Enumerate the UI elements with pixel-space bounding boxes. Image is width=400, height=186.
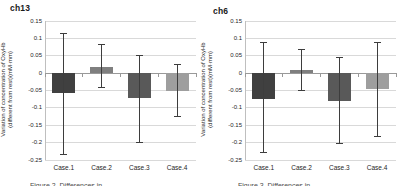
- gridline: [45, 142, 196, 143]
- x-category-label: Case.4: [159, 164, 195, 172]
- y-tick-label: -0.15: [217, 122, 242, 129]
- x-category-label: Case.4: [359, 164, 395, 172]
- y-tick-label: 0.1: [17, 35, 42, 42]
- error-bar-line: [263, 42, 264, 153]
- y-axis-title-line2: (different from rest)(mM·mm): [7, 17, 14, 162]
- error-bar-cap-bottom: [336, 143, 343, 144]
- y-tick-label: 0.15: [217, 18, 242, 25]
- y-tick-label: -0.2: [217, 139, 242, 146]
- gridline: [245, 125, 396, 126]
- chart-ch13: ch13 Variation of concentration of OxyHb…: [0, 0, 200, 186]
- error-bar-line: [63, 33, 64, 155]
- error-bar-cap-bottom: [298, 90, 305, 91]
- y-tick-label: -0.1: [17, 104, 42, 111]
- y-tick-label: 0: [17, 70, 42, 77]
- gridline: [45, 21, 196, 22]
- figure-caption: Figure 3. Differences in: [238, 181, 400, 186]
- error-bar-cap-bottom: [260, 152, 267, 153]
- x-category-label: Case.2: [84, 164, 120, 172]
- axis-tick: [45, 73, 46, 77]
- error-bar-line: [101, 44, 102, 88]
- gridline: [245, 55, 396, 56]
- gridline: [45, 107, 196, 108]
- gridline: [245, 107, 396, 108]
- error-bar-cap-bottom: [60, 154, 67, 155]
- axis-tick: [82, 73, 83, 77]
- y-tick-label: 0.1: [217, 35, 242, 42]
- error-bar-cap-bottom: [98, 87, 105, 88]
- x-category-label: Case.1: [46, 164, 82, 172]
- error-bar-line: [377, 42, 378, 138]
- error-bar-line: [339, 57, 340, 144]
- error-bar-cap-top: [98, 44, 105, 45]
- error-bar-cap-top: [136, 55, 143, 56]
- gridline: [245, 142, 396, 143]
- y-axis-title: Variation of concentration of OxyHb (dif…: [0, 17, 15, 162]
- y-tick-label: -0.25: [17, 157, 42, 164]
- plot-area: [45, 21, 196, 160]
- y-tick-label: 0.05: [217, 52, 242, 59]
- error-bar-line: [139, 55, 140, 143]
- error-bar-cap-top: [60, 33, 67, 34]
- error-bar-cap-top: [260, 42, 267, 43]
- axis-tick: [196, 73, 197, 77]
- y-tick-label: -0.2: [17, 139, 42, 146]
- error-bar-cap-top: [336, 57, 343, 58]
- gridline: [45, 160, 196, 161]
- axis-tick: [282, 73, 283, 77]
- y-axis-title: Variation of concentration of OxyHb (dif…: [200, 17, 215, 162]
- error-bar-line: [177, 64, 178, 117]
- y-tick-label: 0.15: [17, 18, 42, 25]
- y-tick-label: -0.15: [17, 122, 42, 129]
- gridline: [45, 125, 196, 126]
- figure-caption: Figure 2. Differences in: [30, 181, 200, 186]
- y-tick-label: -0.25: [217, 157, 242, 164]
- axis-tick: [245, 73, 246, 77]
- y-axis-line: [45, 21, 46, 160]
- y-axis-title-line1: Variation of concentration of OxyHb: [0, 17, 7, 162]
- gridline: [245, 38, 396, 39]
- gridline: [45, 55, 196, 56]
- axis-tick: [396, 73, 397, 77]
- gridline: [245, 21, 396, 22]
- gridline: [45, 38, 196, 39]
- chart-title: ch13: [10, 3, 30, 13]
- y-axis-title-line2: (different from rest)(mM·mm): [207, 17, 214, 162]
- axis-tick: [158, 73, 159, 77]
- error-bar-cap-bottom: [174, 116, 181, 117]
- plot-area: [245, 21, 396, 160]
- y-tick-label: 0.05: [17, 52, 42, 59]
- y-tick-label: -0.1: [217, 104, 242, 111]
- x-category-label: Case.1: [246, 164, 282, 172]
- y-axis-title-line1: Variation of concentration of OxyHb: [200, 17, 207, 162]
- x-category-label: Case.3: [321, 164, 357, 172]
- x-category-label: Case.3: [121, 164, 157, 172]
- error-bar-cap-bottom: [136, 142, 143, 143]
- figure-canvas: { "captions": ["Figure 2. Differences in…: [0, 0, 400, 186]
- x-category-label: Case.2: [284, 164, 320, 172]
- axis-tick: [120, 73, 121, 77]
- error-bar-cap-top: [298, 49, 305, 50]
- y-axis-line: [245, 21, 246, 160]
- error-bar-cap-top: [174, 64, 181, 65]
- axis-tick: [358, 73, 359, 77]
- y-tick-label: -0.05: [17, 87, 42, 94]
- gridline: [245, 160, 396, 161]
- chart-title: ch6: [213, 6, 228, 16]
- error-bar-cap-top: [374, 42, 381, 43]
- y-tick-label: -0.05: [217, 87, 242, 94]
- axis-tick: [320, 73, 321, 77]
- error-bar-cap-bottom: [374, 136, 381, 137]
- error-bar-line: [301, 49, 302, 91]
- chart-ch6: ch6 Variation of concentration of OxyHb …: [200, 0, 400, 186]
- y-tick-label: 0: [217, 70, 242, 77]
